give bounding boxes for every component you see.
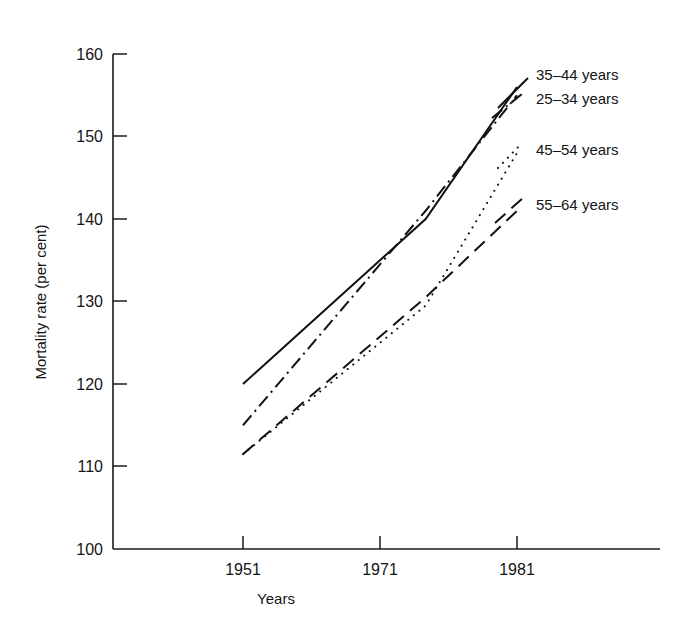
y-tick-label-140: 140 [76,211,103,228]
x-tick-label-1951: 1951 [225,561,261,578]
x-axis-title: Years [257,590,295,607]
legend-label-55-64: 55–64 years [536,196,619,213]
x-tick-label-1981: 1981 [499,561,535,578]
y-tick-label-110: 110 [77,458,103,475]
y-tick-label-130: 130 [76,293,103,310]
legend-label-45-54: 45–54 years [536,141,619,158]
mortality-rate-line-chart: 160 150 140 130 120 110 100 Mortality ra… [0,0,674,624]
y-tick-label-150: 150 [76,128,103,145]
legend-label-25-34: 25–34 years [536,90,619,107]
y-tick-label-120: 120 [76,376,103,393]
y-tick-label-100: 100 [76,541,103,558]
legend-label-35-44: 35–44 years [536,66,619,83]
y-axis-title: Mortality rate (per cent) [32,224,49,379]
x-tick-label-1971: 1971 [362,561,398,578]
y-tick-label-160: 160 [76,46,103,63]
